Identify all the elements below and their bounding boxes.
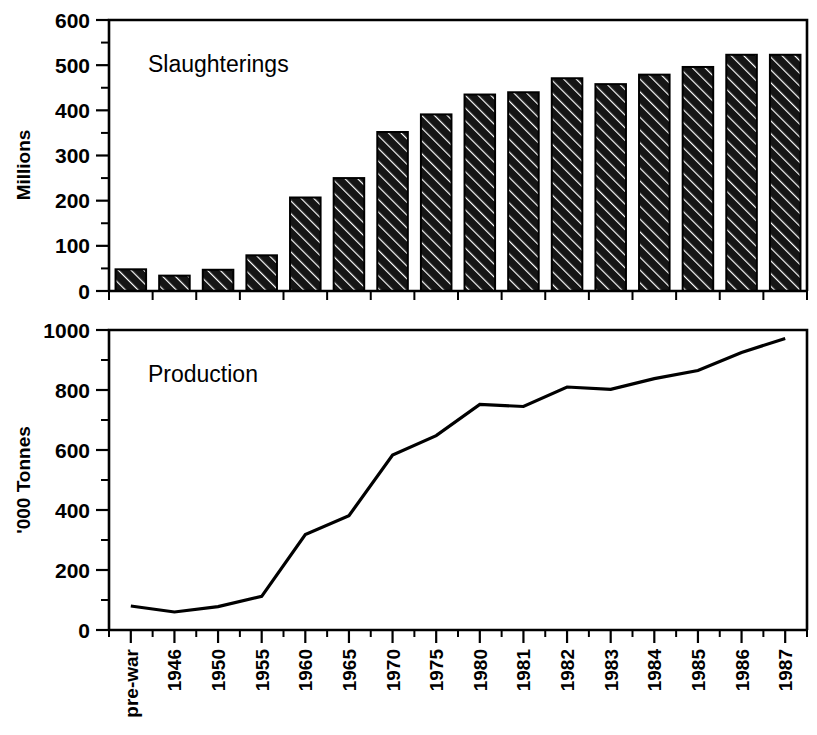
bar-1985 [683, 67, 714, 291]
top-y-tick-label: 400 [55, 99, 90, 122]
top-y-tick-label: 0 [78, 280, 90, 303]
bar-item [683, 67, 714, 291]
bar-1955 [246, 255, 277, 291]
x-tick-label-1980: 1980 [470, 649, 491, 691]
bar-1946 [159, 276, 190, 291]
x-tick-label-pre-war: pre-war [121, 648, 142, 717]
bar-1980 [465, 95, 496, 291]
bottom-y-tick-label: 200 [55, 559, 90, 582]
bar-1986 [726, 55, 757, 291]
x-tick-label-1975: 1975 [426, 649, 447, 692]
bar-1965 [334, 178, 365, 291]
bottom-y-tick-label: 600 [55, 439, 90, 462]
x-tick-label-1984: 1984 [644, 649, 665, 692]
bar-item [465, 95, 496, 291]
bar-pre-war [116, 269, 147, 291]
bottom-y-tick-label: 1000 [43, 319, 90, 342]
bar-1987 [770, 55, 801, 291]
x-tick-label-1983: 1983 [601, 649, 622, 691]
x-tick-label-1970: 1970 [383, 649, 404, 691]
bar-item [334, 178, 365, 291]
top-y-tick-label: 100 [55, 234, 90, 257]
x-tick-label-1981: 1981 [513, 649, 534, 692]
top-y-tick-label: 300 [55, 144, 90, 167]
bar-item [246, 255, 277, 291]
top-y-tick-label: 600 [55, 9, 90, 32]
bottom-y-tick-label: 800 [55, 379, 90, 402]
top-y-axis-title: Millions [13, 130, 34, 201]
bar-item [203, 270, 234, 291]
x-tick-label-1986: 1986 [732, 649, 753, 691]
x-tick-label-1965: 1965 [339, 649, 360, 692]
x-tick-label-1960: 1960 [295, 649, 316, 691]
x-tick-label-1946: 1946 [164, 649, 185, 691]
bar-1975 [421, 114, 452, 291]
bar-1960 [290, 198, 321, 292]
chart-figure: 0100200300400500600 Millions Slaughterin… [0, 0, 817, 735]
bar-item [508, 92, 539, 291]
bar-item [770, 55, 801, 291]
top-y-tick-label: 200 [55, 189, 90, 212]
bar-1950 [203, 270, 234, 291]
bar-1981 [508, 92, 539, 291]
dual-panel-chart: 0100200300400500600 Millions Slaughterin… [0, 0, 817, 735]
bar-1983 [595, 84, 626, 291]
bar-1970 [377, 132, 408, 291]
bar-item [639, 75, 670, 291]
bar-1982 [552, 78, 583, 291]
bottom-y-axis-title: '000 Tonnes [13, 426, 34, 534]
bar-item [290, 198, 321, 292]
top-panel-title: Slaughterings [148, 51, 289, 77]
bar-item [552, 78, 583, 291]
top-y-tick-label: 500 [55, 54, 90, 77]
bottom-panel-title: Production [148, 361, 258, 387]
x-tick-label-1985: 1985 [688, 649, 709, 692]
bar-1984 [639, 75, 670, 291]
bottom-y-tick-label: 0 [78, 619, 90, 642]
bar-item [116, 269, 147, 291]
panel-production: 02004006008001000 '000 Tonnes Production [13, 319, 807, 644]
bar-item [421, 114, 452, 291]
x-tick-label-1950: 1950 [208, 649, 229, 691]
x-tick-label-1987: 1987 [775, 649, 796, 691]
bar-item [595, 84, 626, 291]
bottom-y-tick-label: 400 [55, 499, 90, 522]
x-tick-label-1982: 1982 [557, 649, 578, 691]
bar-item [726, 55, 757, 291]
bar-item [159, 276, 190, 291]
bar-item [377, 132, 408, 291]
x-tick-label-1955: 1955 [252, 649, 273, 692]
